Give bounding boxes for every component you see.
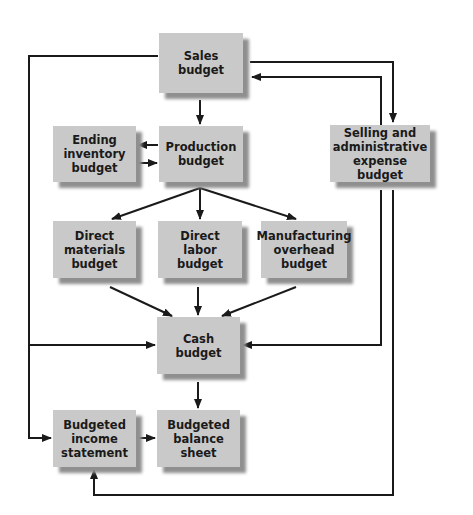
node-selling-admin-expense-budget: Selling and administrative expense budge… (330, 125, 430, 182)
node-label: Sales budget (178, 49, 224, 77)
node-label: Manufacturing overhead budget (257, 229, 352, 271)
node-label: Budgeted income statement (61, 418, 128, 460)
node-direct-materials-budget: Direct materials budget (53, 221, 136, 278)
node-label: Direct materials budget (64, 229, 125, 271)
node-label: Cash budget (175, 332, 221, 360)
node-manufacturing-overhead-budget: Manufacturing overhead budget (261, 221, 347, 278)
node-production-budget: Production budget (159, 126, 243, 182)
node-label: Direct labor budget (177, 229, 223, 271)
node-ending-inventory-budget: Ending inventory budget (53, 126, 136, 182)
node-label: Budgeted balance sheet (167, 418, 230, 460)
node-budgeted-income-statement: Budgeted income statement (53, 410, 136, 467)
node-cash-budget: Cash budget (157, 317, 240, 374)
node-label: Selling and administrative expense budge… (332, 126, 428, 182)
node-budgeted-balance-sheet: Budgeted balance sheet (157, 410, 240, 467)
node-label: Production budget (166, 140, 237, 168)
node-sales-budget: Sales budget (159, 33, 243, 93)
node-direct-labor-budget: Direct labor budget (158, 221, 242, 278)
node-label: Ending inventory budget (63, 133, 125, 175)
